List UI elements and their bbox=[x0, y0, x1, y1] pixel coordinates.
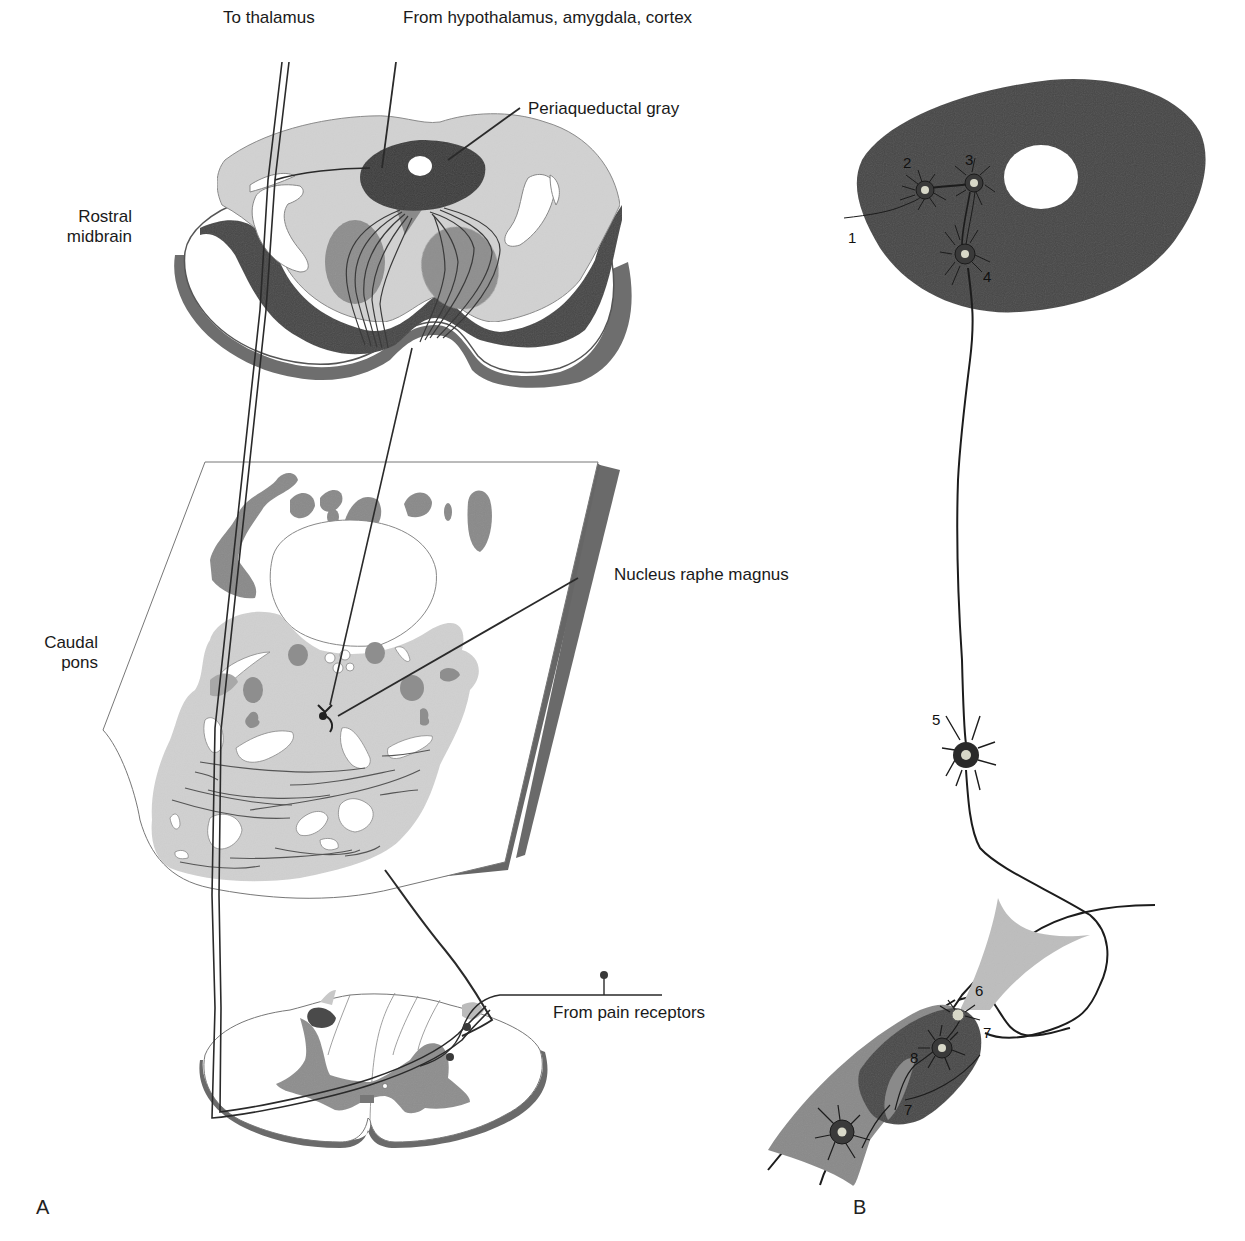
label-periaqueductal-gray: Periaqueductal gray bbox=[528, 99, 679, 119]
pain-receptor-cell-body bbox=[600, 971, 608, 979]
neuron-label-7b: 7 bbox=[904, 1102, 912, 1118]
neuron-label-2: 2 bbox=[903, 155, 911, 171]
panel-letter-a: A bbox=[36, 1196, 49, 1219]
label-from-hypothalamus: From hypothalamus, amygdala, cortex bbox=[403, 8, 692, 28]
neuron-label-1: 1 bbox=[848, 230, 856, 246]
label-from-pain-receptors: From pain receptors bbox=[553, 1003, 705, 1023]
label-nucleus-raphe-magnus: Nucleus raphe magnus bbox=[614, 565, 789, 585]
dorsal-horn-enlarged bbox=[768, 898, 1090, 1186]
dorsal-horn-neuron bbox=[446, 1053, 454, 1061]
panel-a bbox=[103, 62, 662, 1148]
panel-b bbox=[768, 79, 1206, 1186]
neuron-label-3: 3 bbox=[965, 152, 973, 168]
label-rostral-midbrain-line1: Rostral bbox=[40, 207, 132, 227]
label-to-thalamus: To thalamus bbox=[223, 8, 315, 28]
caudal-pons-section bbox=[103, 462, 620, 898]
spinal-cord-section bbox=[199, 990, 547, 1148]
label-rostral-midbrain: Rostral midbrain bbox=[40, 207, 132, 247]
label-caudal-pons-line2: pons bbox=[18, 653, 98, 673]
pain-modulation-diagram bbox=[0, 0, 1245, 1241]
neuron-6-soma bbox=[952, 1009, 964, 1021]
neuron-label-5: 5 bbox=[932, 712, 940, 728]
cerebral-aqueduct bbox=[408, 156, 432, 176]
panel-letter-b: B bbox=[853, 1196, 866, 1219]
dorsal-horn-neuron bbox=[463, 1023, 471, 1031]
neuron-label-6: 6 bbox=[975, 983, 983, 999]
label-caudal-pons: Caudal pons bbox=[18, 633, 98, 673]
label-caudal-pons-line1: Caudal bbox=[18, 633, 98, 653]
label-rostral-midbrain-line2: midbrain bbox=[40, 227, 132, 247]
aqueduct-enlarged bbox=[1004, 145, 1078, 209]
rostral-midbrain-section bbox=[174, 114, 631, 388]
neuron-label-8: 8 bbox=[910, 1050, 918, 1066]
neuron-label-4: 4 bbox=[983, 269, 991, 285]
neuron-label-7a: 7 bbox=[983, 1025, 991, 1041]
